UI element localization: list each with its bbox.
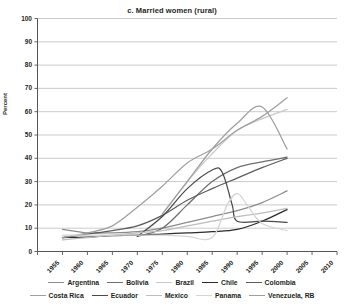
series-line (162, 109, 287, 214)
legend-item[interactable]: Bolivia (107, 279, 148, 286)
legend-item[interactable]: Panama (196, 292, 241, 299)
y-tick-label: 20 (8, 201, 32, 208)
y-tick-label: 30 (8, 178, 32, 185)
legend-swatch-icon (30, 295, 46, 296)
y-tick-label: 90 (8, 38, 32, 45)
legend-item[interactable]: Ecuador (92, 292, 138, 299)
legend-swatch-icon (107, 282, 123, 283)
legend-item[interactable]: Colombia (246, 279, 296, 286)
legend-label: Mexico (165, 292, 188, 299)
legend-swatch-icon (202, 282, 218, 283)
legend-swatch-icon (156, 282, 172, 283)
legend-row: ArgentinaBoliviaBrazilChileColombia (0, 276, 344, 289)
legend-label: Venezuela, RB (268, 292, 314, 299)
legend-label: Colombia (265, 279, 296, 286)
gridlines (38, 19, 338, 229)
legend-swatch-icon (249, 295, 265, 296)
legend-label: Panama (215, 292, 241, 299)
legend-swatch-icon (92, 295, 108, 296)
y-tick-label: 0 (8, 248, 32, 255)
legend-label: Chile (221, 279, 238, 286)
legend-swatch-icon (196, 295, 212, 296)
y-tick-label: 60 (8, 108, 32, 115)
series-lines (62, 98, 287, 240)
legend-label: Costa Rica (49, 292, 84, 299)
legend-label: Brazil (175, 279, 194, 286)
legend-item[interactable]: Mexico (146, 292, 188, 299)
legend-item[interactable]: Costa Rica (30, 292, 84, 299)
legend-row: Costa RicaEcuadorMexicoPanamaVenezuela, … (0, 289, 344, 302)
legend-item[interactable]: Venezuela, RB (249, 292, 314, 299)
chart-figure: c. Married women (rural) Percent 0102030… (0, 0, 344, 308)
legend-swatch-icon (48, 282, 64, 283)
legend-label: Ecuador (111, 292, 138, 299)
legend-item[interactable]: Brazil (156, 279, 194, 286)
tick-marks (35, 19, 338, 256)
legend-swatch-icon (246, 282, 262, 283)
legend-label: Bolivia (126, 279, 148, 286)
legend-swatch-icon (146, 295, 162, 296)
y-tick-label: 40 (8, 154, 32, 161)
y-tick-label: 10 (8, 224, 32, 231)
y-tick-label: 100 (8, 15, 32, 22)
y-tick-label: 70 (8, 84, 32, 91)
legend-label: Argentina (67, 279, 99, 286)
chart-legend: ArgentinaBoliviaBrazilChileColombia Cost… (0, 276, 344, 302)
legend-item[interactable]: Argentina (48, 279, 99, 286)
y-tick-label: 50 (8, 131, 32, 138)
y-tick-label: 80 (8, 61, 32, 68)
series-line (62, 98, 287, 238)
legend-item[interactable]: Chile (202, 279, 238, 286)
